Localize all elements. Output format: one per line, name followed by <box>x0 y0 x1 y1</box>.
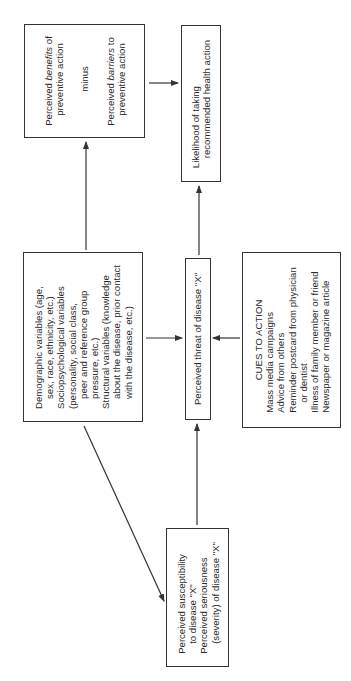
threat-label: Perceived threat of disease "X" <box>192 273 203 405</box>
susceptibility-line1: Perceived susceptibility <box>175 542 186 654</box>
sociopsych-line1: Sociopsychological variables <box>55 265 66 409</box>
likelihood-text: Likelihood of taking recommended health … <box>190 39 212 167</box>
modifying-factors-text: Demographic variables (age, sex, race, e… <box>33 265 134 409</box>
cue-mass-media: Mass media campaigns <box>263 267 274 413</box>
modifying-factors-box: Demographic variables (age, sex, race, e… <box>23 252 143 422</box>
cue-advice: Advice from others <box>275 267 286 413</box>
seriousness-line1: Perceived seriousness <box>198 542 209 654</box>
structural-line3: with the disease, etc.) <box>122 265 133 409</box>
cues-to-action-box: CUES TO ACTION Mass media campaigns Advi… <box>242 252 341 428</box>
barriers-line2: preventive action <box>115 36 126 126</box>
sociopsych-line2: (personality, social class, <box>66 265 77 409</box>
cue-illness: Illness of family member or friend <box>308 267 319 413</box>
likelihood-box: Likelihood of taking recommended health … <box>181 25 221 182</box>
threat-box: Perceived threat of disease "X" <box>185 258 211 420</box>
benefits-line2: preventive action <box>54 36 65 126</box>
cues-to-action-text: CUES TO ACTION Mass media campaigns Advi… <box>252 267 330 413</box>
structural-line2: about the disease, prior contact <box>111 265 122 409</box>
likelihood-line1: Likelihood of taking <box>190 39 201 167</box>
seriousness-line2: (severity) of disease "X" <box>209 542 220 654</box>
demographic-line2: sex, race, ethnicity, etc.) <box>44 265 55 409</box>
structural-line1: Structural variables (knowledge <box>100 265 111 409</box>
benefits-prefix: Perceived <box>42 80 53 125</box>
cue-reminder: Reminder postcard from physician <box>286 267 297 413</box>
susceptibility-box: Perceived susceptibility to disease "X" … <box>166 528 229 667</box>
benefits-barriers-text: Perceived benefits of preventive action … <box>42 36 126 126</box>
benefits-suffix: of <box>42 36 53 47</box>
barriers-prefix: Perceived <box>104 80 115 125</box>
minus-label: minus <box>79 36 90 126</box>
susceptibility-line2: to disease "X" <box>186 542 197 654</box>
cue-newspaper: Newspaper or magazine article <box>320 267 331 413</box>
sociopsych-line4: pressure, etc.) <box>89 265 100 409</box>
susceptibility-text: Perceived susceptibility to disease "X" … <box>175 542 220 654</box>
arrow-modifying-to-susceptibility <box>84 426 164 601</box>
cue-reminder-cont: or dentist <box>297 267 308 413</box>
cues-heading: CUES TO ACTION <box>252 267 263 413</box>
barriers-suffix: to <box>104 37 115 48</box>
threat-text: Perceived threat of disease "X" <box>192 273 203 405</box>
benefits-barriers-box: Perceived benefits of preventive action … <box>24 24 145 138</box>
likelihood-line2: recommended health action <box>201 39 212 167</box>
demographic-line1: Demographic variables (age, <box>33 265 44 409</box>
benefits-emphasis: benefits <box>42 47 53 81</box>
barriers-emphasis: barriers <box>104 48 115 81</box>
sociopsych-line3: peer and reference group <box>77 265 88 409</box>
